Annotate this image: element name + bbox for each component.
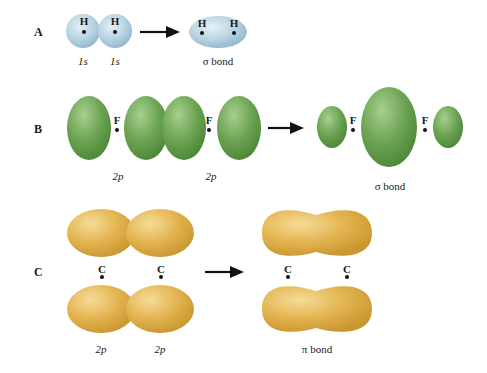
pi-bond-orbital — [262, 210, 372, 332]
nucleus-dot — [200, 31, 204, 35]
nucleus-dot — [423, 128, 427, 132]
nucleus-dot — [351, 128, 355, 132]
atom-label-h-1: H — [78, 16, 90, 27]
caption-1s-left: 1s — [73, 55, 93, 67]
arrow-a — [140, 26, 180, 38]
nucleus-dot — [232, 31, 236, 35]
nucleus-dot — [345, 275, 349, 279]
row-label-c: C — [34, 265, 43, 280]
caption-2p-c-left: 2p — [89, 343, 113, 355]
nucleus-dot — [286, 275, 290, 279]
atom-label-c-2: C — [155, 264, 167, 275]
caption-sigma-bond-a: σ bond — [193, 55, 243, 67]
nucleus-dot — [159, 275, 163, 279]
nucleus-dot — [115, 128, 119, 132]
row-label-b: B — [34, 122, 42, 137]
row-label-a: A — [34, 25, 43, 40]
nucleus-dot — [207, 128, 211, 132]
atom-label-f-4: F — [419, 115, 431, 126]
caption-sigma-bond-b: σ bond — [365, 180, 415, 192]
p-lobe-2 — [124, 96, 168, 160]
row-b-before — [67, 96, 261, 160]
atom-label-f-3: F — [347, 115, 359, 126]
sigma-bond-orbital-b — [317, 87, 463, 167]
caption-2p-b-right: 2p — [199, 170, 223, 182]
atom-label-c-3: C — [282, 264, 294, 275]
p-lobe-1 — [67, 96, 111, 160]
caption-1s-right: 1s — [105, 55, 125, 67]
atom-label-h-3: H — [196, 18, 208, 29]
caption-2p-b-left: 2p — [106, 170, 130, 182]
p-lobe-4 — [217, 96, 261, 160]
nucleus-dot — [113, 30, 117, 34]
p-lobe-3 — [162, 96, 206, 160]
nucleus-dot — [100, 275, 104, 279]
arrow-c — [205, 266, 244, 278]
atom-label-c-1: C — [96, 264, 108, 275]
atom-label-h-4: H — [228, 18, 240, 29]
caption-pi-bond: π bond — [292, 343, 342, 355]
atom-label-f-2: F — [203, 115, 215, 126]
row-c-before — [67, 209, 194, 333]
arrow-b — [268, 122, 304, 134]
nucleus-dot — [82, 30, 86, 34]
atom-label-h-2: H — [109, 16, 121, 27]
atom-label-c-4: C — [341, 264, 353, 275]
caption-2p-c-right: 2p — [148, 343, 172, 355]
atom-label-f-1: F — [111, 115, 123, 126]
row-a-before — [66, 14, 132, 48]
